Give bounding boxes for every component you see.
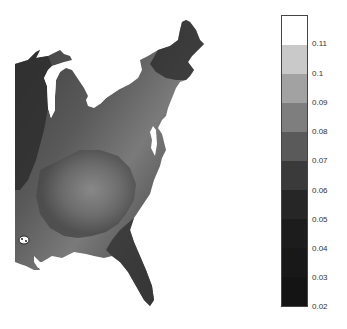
eastern-us-map [0,0,270,329]
colorbar-tick-label: 0.02 [312,303,328,311]
choropleth-map [0,0,270,329]
colorbar-tick-label: 0.07 [312,157,328,165]
colorbar-tick-label: 0.03 [312,274,328,282]
colorbar-band [282,45,307,74]
colorbar-band [282,219,307,248]
colorbar-band [282,277,307,306]
landmass-northeast-low-values [150,20,204,80]
colorbar [281,15,308,307]
colorbar-band [282,248,307,277]
missing-data-dot [25,240,27,242]
colorbar-band [282,132,307,161]
colorbar-tick-label: 0.04 [312,245,328,253]
missing-data-dot [21,238,23,240]
colorbar-band [282,16,307,45]
colorbar-tick-label: 0.05 [312,216,328,224]
colorbar-tick-label: 0.09 [312,99,328,107]
colorbar-tick-label: 0.06 [312,187,328,195]
colorbar-tick-label: 0.08 [312,128,328,136]
colorbar-band [282,161,307,190]
colorbar-tick-label: 0.11 [312,40,327,48]
missing-data-marker [19,236,29,244]
colorbar-band [282,74,307,103]
colorbar-band [282,103,307,132]
colorbar-tick-label: 0.1 [312,70,323,78]
colorbar-band [282,190,307,219]
